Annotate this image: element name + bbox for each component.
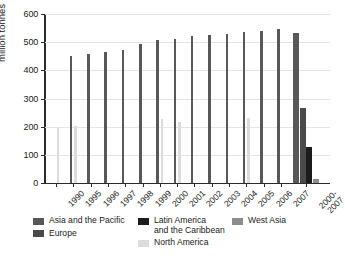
gridline (45, 14, 330, 15)
legend-label: North America (154, 238, 208, 248)
bar (300, 108, 306, 184)
bar (74, 126, 77, 183)
legend-item[interactable]: Asia and the Pacific (33, 216, 124, 226)
bar (139, 44, 142, 183)
x-tick-label: 1995 (84, 189, 104, 209)
chart-legend: Asia and the PacificEuropeLatin America … (0, 216, 338, 262)
x-tick-label: 2000- 2007 (317, 189, 345, 217)
x-tick-label: 2003 (222, 189, 242, 209)
x-tick-mark (160, 184, 161, 187)
y-tick-label: 0 (10, 179, 38, 188)
legend-swatch-icon (138, 240, 149, 247)
x-tick-label: 2002 (205, 189, 225, 209)
bar (122, 50, 125, 183)
bar (70, 56, 73, 183)
x-tick-mark (108, 184, 109, 187)
x-tick-label: 1998 (136, 189, 156, 209)
bar (191, 36, 194, 183)
bar (57, 128, 60, 183)
x-tick-mark (306, 184, 307, 187)
y-tick-label: 200 (10, 122, 38, 131)
plot-area (44, 14, 330, 183)
bar (313, 179, 319, 183)
legend-column: Latin America and the CaribbeanNorth Ame… (138, 216, 225, 251)
x-tick-mark (194, 184, 195, 187)
bar (174, 39, 177, 183)
x-tick-label: 2005 (257, 189, 277, 209)
bar (87, 54, 90, 183)
x-tick-mark (229, 184, 230, 187)
legend-column: Asia and the PacificEurope (33, 216, 124, 241)
x-tick-label: 2007 (291, 189, 311, 209)
y-tick-mark (41, 183, 44, 184)
y-tick-mark (41, 70, 44, 71)
y-tick-mark (41, 127, 44, 128)
bar (226, 34, 229, 183)
y-tick-label: 600 (10, 10, 38, 19)
y-axis-tick-labels: 0100200300400500600 (10, 14, 40, 183)
bar (178, 122, 181, 183)
y-tick-label: 500 (10, 38, 38, 47)
y-tick-label: 400 (10, 66, 38, 75)
x-tick-mark (91, 184, 92, 187)
x-tick-label: 1990 (67, 189, 87, 209)
x-tick-mark (56, 184, 57, 187)
x-tick-mark (73, 184, 74, 187)
y-tick-mark (41, 14, 44, 15)
x-tick-label: 1996 (101, 189, 121, 209)
y-tick-label: 100 (10, 150, 38, 159)
bar (243, 32, 246, 183)
bar (260, 31, 263, 183)
legend-swatch-icon (33, 230, 44, 237)
legend-label: Asia and the Pacific (49, 216, 124, 226)
y-tick-label: 300 (10, 94, 38, 103)
bar (277, 29, 280, 183)
bar (208, 35, 211, 183)
x-tick-label: 2001 (188, 189, 208, 209)
bar (247, 118, 250, 183)
bar (104, 52, 107, 184)
legend-item[interactable]: Europe (33, 229, 124, 239)
y-tick-mark (41, 155, 44, 156)
x-tick-mark (177, 184, 178, 187)
x-tick-mark (246, 184, 247, 187)
gridline (45, 42, 330, 43)
legend-swatch-icon (232, 218, 243, 225)
x-tick-mark (212, 184, 213, 187)
legend-label: West Asia (248, 216, 286, 226)
legend-swatch-icon (33, 218, 44, 225)
legend-column: West Asia (232, 216, 286, 229)
x-tick-label: 2000 (170, 189, 190, 209)
x-tick-label: 2004 (240, 189, 260, 209)
x-tick-mark (125, 184, 126, 187)
x-axis-line (44, 183, 330, 184)
y-axis-title: million tonnes (0, 0, 7, 62)
x-tick-mark (264, 184, 265, 187)
y-tick-mark (41, 99, 44, 100)
legend-label: Latin America and the Caribbean (154, 216, 225, 235)
legend-item[interactable]: North America (138, 238, 225, 248)
legend-label: Europe (49, 229, 77, 239)
bar (161, 119, 164, 183)
legend-item[interactable]: West Asia (232, 216, 286, 226)
legend-swatch-icon (138, 218, 149, 225)
bar (306, 147, 312, 183)
x-tick-label: 2006 (274, 189, 294, 209)
x-tick-mark (281, 184, 282, 187)
bar (293, 33, 299, 183)
legend-item[interactable]: Latin America and the Caribbean (138, 216, 225, 235)
x-tick-label: 1997 (118, 189, 138, 209)
y-tick-mark (41, 42, 44, 43)
bar (156, 40, 159, 183)
x-tick-label: 1999 (153, 189, 173, 209)
x-tick-mark (143, 184, 144, 187)
